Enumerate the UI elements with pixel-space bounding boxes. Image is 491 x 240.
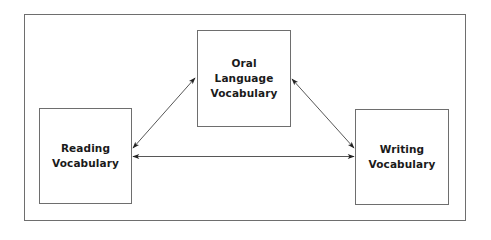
edge-reading-oral-arrow	[133, 78, 195, 148]
node-label-line: Vocabulary	[211, 86, 278, 101]
edge-oral-writing-arrow	[292, 79, 354, 148]
node-label-line: Vocabulary	[369, 157, 436, 172]
node-label-line: Reading	[61, 141, 110, 156]
node-label-line: Language	[215, 71, 274, 86]
node-label-line: Oral	[231, 56, 256, 71]
node-writing-vocabulary: Writing Vocabulary	[355, 109, 449, 205]
node-label-line: Writing	[380, 142, 424, 157]
node-label-line: Vocabulary	[52, 156, 119, 171]
node-reading-vocabulary: Reading Vocabulary	[39, 108, 132, 204]
node-oral-language-vocabulary: Oral Language Vocabulary	[197, 30, 291, 127]
